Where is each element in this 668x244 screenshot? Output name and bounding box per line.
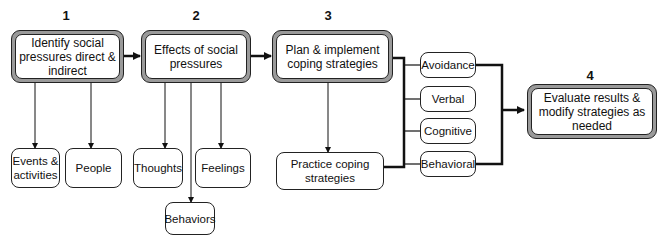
step-4-label: Evaluate results & modify strategies as … xyxy=(531,88,653,135)
strategy-behavioral: Behavioral xyxy=(420,151,476,177)
step-2-effects-box: Effects of social pressures xyxy=(141,30,251,83)
strategy-avoidance: Avoidance xyxy=(420,52,476,78)
strategy-verbal: Verbal xyxy=(420,86,476,112)
feelings-box: Feelings xyxy=(195,148,251,188)
step-1-number: 1 xyxy=(56,8,76,23)
behaviors-box: Behaviors xyxy=(165,202,215,235)
step-4-number: 4 xyxy=(580,68,600,83)
step-2-label: Effects of social pressures xyxy=(145,34,247,79)
step-1-label: Identify social pressures direct & indir… xyxy=(15,34,120,79)
step-4-evaluate-box: Evaluate results & modify strategies as … xyxy=(527,84,657,139)
people-box: People xyxy=(65,148,122,188)
step-3-label: Plan & implement coping strategies xyxy=(276,34,389,79)
step-2-number: 2 xyxy=(186,8,206,23)
strategy-cognitive: Cognitive xyxy=(420,118,476,144)
events-activities-box: Events & activities xyxy=(11,148,60,188)
step-3-plan-box: Plan & implement coping strategies xyxy=(272,30,393,83)
step-1-identify-box: Identify social pressures direct & indir… xyxy=(11,30,124,83)
thoughts-box: Thoughts xyxy=(133,148,183,188)
step-3-number: 3 xyxy=(318,8,338,23)
practice-coping-box: Practice coping strategies xyxy=(276,152,384,190)
